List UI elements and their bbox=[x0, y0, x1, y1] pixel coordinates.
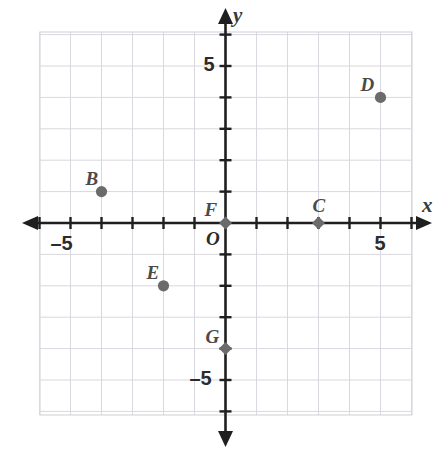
point-label-c: C bbox=[313, 195, 326, 217]
x-axis-arrow-right-icon bbox=[416, 216, 432, 230]
y-axis-arrow-down-icon bbox=[218, 431, 233, 447]
point-marker bbox=[219, 217, 232, 230]
coordinate-plane-figure: x y O –555–5 BCDEFG bbox=[0, 0, 448, 455]
point-marker bbox=[158, 280, 169, 291]
x-axis-arrow-left-icon bbox=[22, 216, 38, 230]
y-axis-label: y bbox=[233, 3, 242, 28]
coordinate-plane-svg bbox=[0, 0, 448, 455]
point-label-b: B bbox=[86, 168, 99, 190]
origin-label: O bbox=[206, 228, 220, 250]
y-axis-arrow-up-icon bbox=[218, 8, 233, 24]
y-tick-label: 5 bbox=[204, 53, 215, 76]
x-axis-label: x bbox=[422, 193, 433, 218]
point-label-d: D bbox=[361, 74, 375, 96]
point-marker bbox=[312, 217, 325, 230]
x-tick-label: –5 bbox=[51, 232, 73, 255]
point-label-e: E bbox=[147, 262, 160, 284]
point-label-g: G bbox=[206, 326, 220, 348]
point-marker bbox=[219, 342, 232, 355]
y-tick-label: –5 bbox=[190, 367, 212, 390]
point-label-f: F bbox=[205, 199, 218, 221]
point-marker bbox=[375, 92, 386, 103]
x-tick-label: 5 bbox=[375, 232, 386, 255]
